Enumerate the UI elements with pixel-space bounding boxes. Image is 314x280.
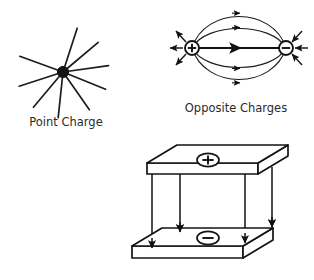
- opposite-charges-caption: Opposite Charges: [185, 101, 287, 115]
- bottom-plate: [132, 228, 273, 258]
- negative-charge-marker: [279, 41, 293, 55]
- positive-charge-marker: [185, 41, 199, 55]
- point-charge-core: [57, 66, 68, 77]
- bottom-plate-front-edge: [132, 246, 243, 258]
- electric-field-figure: Point Charge: [0, 0, 314, 280]
- point-charge-caption: Point Charge: [29, 115, 102, 129]
- top-plate: [147, 145, 288, 174]
- figure-root: Point Charge: [0, 0, 314, 280]
